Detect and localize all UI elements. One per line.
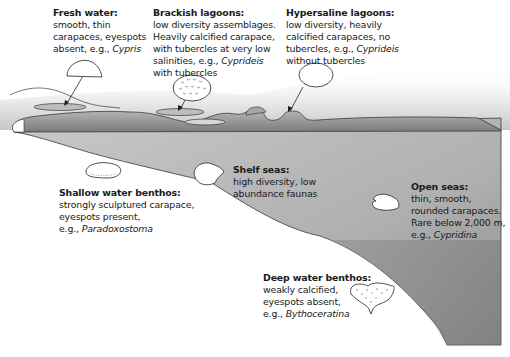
- shelf-seas-label: Shelf seas: high diversity, low abundanc…: [233, 164, 317, 200]
- fresh-water-label: Fresh water: smooth, thin carapaces, eye…: [53, 7, 146, 55]
- label-title: Fresh water:: [53, 7, 146, 19]
- cypris-carapace-icon: [67, 60, 102, 77]
- open-seas-label: Open seas: thin, smooth, rounded carapac…: [411, 181, 505, 241]
- paradoxostoma-icon: [86, 163, 121, 178]
- freshwater-pool: [34, 104, 86, 111]
- lagoon-pool: [185, 119, 225, 125]
- brackish-lagoons-label: Brackish lagoons: low diversity assembla…: [153, 7, 276, 79]
- shallow-water-benthos-label: Shallow water benthos: strongly sculptur…: [59, 187, 194, 235]
- deep-water-benthos-label: Deep water benthos: weakly calcified, ey…: [263, 272, 371, 320]
- hypersaline-lagoons-label: Hypersaline lagoons: low diversity, heav…: [286, 7, 399, 67]
